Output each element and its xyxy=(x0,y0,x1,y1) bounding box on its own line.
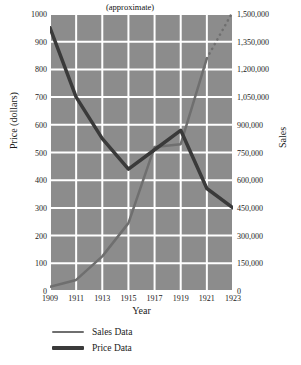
right-tick-label: 900,000 xyxy=(237,120,263,129)
series-layer xyxy=(50,14,233,287)
left-tick-label: 900 xyxy=(35,37,47,46)
legend-item: Price Data xyxy=(52,340,252,356)
series-line-sales-data-approximate xyxy=(207,14,233,58)
plot-area xyxy=(50,14,233,291)
chart-figure: (approximate) 01002003004005006007008009… xyxy=(0,0,301,365)
left-tick-label: 200 xyxy=(35,231,47,240)
plot-svg xyxy=(50,14,233,291)
left-tick-label: 600 xyxy=(35,120,47,129)
x-tick-label: 1909 xyxy=(42,294,58,303)
x-tick-label: 1917 xyxy=(147,294,163,303)
left-tick-label: 100 xyxy=(35,259,47,268)
right-tick-label: 600,000 xyxy=(237,176,263,185)
y-axis-title-left: Price (dollars) xyxy=(8,61,19,181)
left-tick-label: 400 xyxy=(35,176,47,185)
right-tick-label: 150,000 xyxy=(237,259,263,268)
legend-swatch-icon xyxy=(52,331,84,334)
right-tick-label: 300,000 xyxy=(237,231,263,240)
right-axis-ticks: 0150,000300,000450,000600,000750,000900,… xyxy=(237,14,299,291)
right-tick-label: 1,200,000 xyxy=(237,65,269,74)
right-tick-label: 1,350,000 xyxy=(237,37,269,46)
legend-swatch-icon xyxy=(52,346,84,350)
x-axis-title: Year xyxy=(50,305,233,316)
x-tick-label: 1915 xyxy=(120,294,136,303)
left-tick-label: 500 xyxy=(35,148,47,157)
x-tick-label: 1913 xyxy=(94,294,110,303)
x-tick-label: 1911 xyxy=(68,294,84,303)
left-tick-label: 800 xyxy=(35,65,47,74)
gridlines xyxy=(50,14,233,291)
right-tick-label: 1,500,000 xyxy=(237,10,269,19)
legend-item: Sales Data xyxy=(52,324,252,340)
right-tick-label: 750,000 xyxy=(237,148,263,157)
legend-label: Price Data xyxy=(92,343,132,353)
left-tick-label: 700 xyxy=(35,93,47,102)
left-tick-label: 1000 xyxy=(31,10,47,19)
x-tick-label: 1921 xyxy=(199,294,215,303)
x-tick-label: 1919 xyxy=(173,294,189,303)
y-axis-title-right: Sales xyxy=(277,108,288,168)
left-tick-label: 300 xyxy=(35,203,47,212)
x-tick-label: 1923 xyxy=(225,294,241,303)
approximate-annotation: (approximate) xyxy=(106,2,154,12)
right-tick-label: 450,000 xyxy=(237,203,263,212)
legend-label: Sales Data xyxy=(92,327,132,337)
chart-legend: Sales DataPrice Data xyxy=(52,324,252,356)
right-tick-label: 1,050,000 xyxy=(237,93,269,102)
